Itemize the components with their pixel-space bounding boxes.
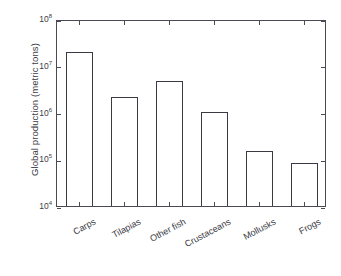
x-tick-mark-top xyxy=(304,21,305,25)
y-tick-mark-right xyxy=(321,161,325,162)
bar-carps[interactable] xyxy=(66,52,94,206)
bar-other-fish[interactable] xyxy=(156,81,184,206)
y-tick-mark-right xyxy=(321,21,325,22)
y-tick-label: 104 xyxy=(39,202,52,211)
x-tick-mark-top xyxy=(259,21,260,25)
x-tick-mark xyxy=(79,202,80,206)
plot-area xyxy=(56,20,326,207)
bar-tilapias[interactable] xyxy=(111,97,139,207)
y-tick-mark-right xyxy=(321,208,325,209)
y-tick-label: 106 xyxy=(39,109,52,118)
y-tick-label: 108 xyxy=(39,15,52,24)
chart-figure: Global production (metric tons) 10410510… xyxy=(0,0,341,276)
x-tick-mark xyxy=(124,202,125,206)
x-tick-mark-top xyxy=(214,21,215,25)
x-tick-mark xyxy=(304,202,305,206)
bar-crustaceans[interactable] xyxy=(201,112,229,206)
x-tick-mark-top xyxy=(169,21,170,25)
y-tick-label: 105 xyxy=(39,155,52,164)
bar-mollusks[interactable] xyxy=(246,151,274,206)
y-axis-tick-labels: 104105106107108 xyxy=(0,0,52,276)
x-tick-mark xyxy=(169,202,170,206)
y-tick-mark xyxy=(57,21,61,22)
y-tick-mark xyxy=(57,67,61,68)
y-tick-mark xyxy=(57,114,61,115)
y-tick-mark-right xyxy=(321,114,325,115)
x-tick-mark xyxy=(259,202,260,206)
bar-frogs[interactable] xyxy=(291,163,319,206)
x-tick-mark xyxy=(214,202,215,206)
y-tick-mark xyxy=(57,161,61,162)
y-tick-mark xyxy=(57,208,61,209)
y-tick-label: 107 xyxy=(39,62,52,71)
x-tick-mark-top xyxy=(124,21,125,25)
x-tick-mark-top xyxy=(79,21,80,25)
y-tick-mark-right xyxy=(321,67,325,68)
